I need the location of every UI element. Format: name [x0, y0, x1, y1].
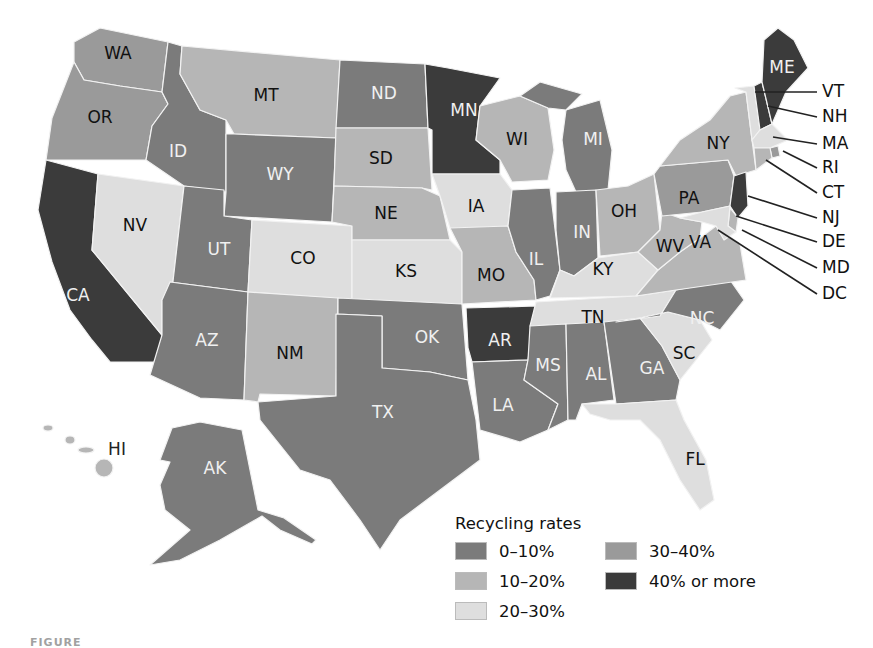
state-label-nc: NC	[690, 308, 715, 328]
callout-label-dc: DC	[822, 283, 847, 303]
callout-label-vt: VT	[822, 81, 845, 101]
state-label-tx: TX	[371, 402, 394, 422]
callout-label-nh: NH	[822, 106, 848, 126]
callout-label-ri: RI	[822, 157, 839, 177]
state-label-tn: TN	[580, 307, 604, 327]
state-label-or: OR	[87, 107, 112, 127]
state-label-ny: NY	[706, 133, 730, 153]
state-label-in: IN	[573, 222, 591, 242]
state-HI[interactable]	[43, 425, 113, 477]
legend-swatch	[455, 572, 487, 590]
legend-swatch	[605, 542, 637, 560]
callout-labels: VTNHMARICTNJDEMDDC	[822, 81, 850, 303]
state-label-sc: SC	[673, 343, 696, 363]
state-label-wa: WA	[104, 43, 132, 63]
state-label-mn: MN	[450, 100, 477, 120]
state-label-wy: WY	[266, 164, 294, 184]
state-label-ga: GA	[640, 358, 665, 378]
legend-label: 30–40%	[649, 542, 715, 561]
legend-swatch	[455, 602, 487, 620]
state-label-wv: WV	[656, 236, 685, 256]
state-label-sd: SD	[369, 148, 393, 168]
legend-item-10-20: 10–20%	[447, 570, 597, 592]
state-label-la: LA	[492, 395, 514, 415]
legend-label: 10–20%	[499, 572, 565, 591]
state-label-nv: NV	[123, 215, 148, 235]
callout-label-de: DE	[822, 231, 846, 251]
state-label-me: ME	[769, 57, 794, 77]
legend-items: 0–10% 30–40% 10–20% 40% or more 20–30%	[447, 540, 767, 622]
legend-item-30-40: 30–40%	[597, 540, 767, 562]
state-label-id: ID	[169, 141, 187, 161]
legend-label: 40% or more	[649, 572, 756, 591]
callout-label-nj: NJ	[822, 207, 840, 227]
state-label-ca: CA	[66, 285, 90, 305]
state-label-nd: ND	[371, 83, 397, 103]
state-label-mo: MO	[477, 265, 505, 285]
state-label-mi: MI	[583, 129, 603, 149]
state-label-va: VA	[689, 232, 712, 252]
legend-swatch	[605, 572, 637, 590]
state-label-ks: KS	[395, 261, 417, 281]
state-label-pa: PA	[679, 188, 700, 208]
legend-swatch	[455, 542, 487, 560]
state-label-oh: OH	[611, 201, 637, 221]
legend-label: 20–30%	[499, 602, 565, 621]
legend-title: Recycling rates	[455, 512, 767, 536]
state-label-ms: MS	[535, 355, 560, 375]
state-label-mt: MT	[253, 85, 279, 105]
state-CT[interactable]	[754, 148, 772, 170]
legend: Recycling rates 0–10% 30–40% 10–20% 40% …	[447, 512, 767, 622]
state-label-ky: KY	[593, 259, 615, 279]
state-label-fl: FL	[685, 449, 705, 469]
state-label-ak: AK	[204, 458, 228, 478]
state-label-az: AZ	[195, 330, 218, 350]
state-label-co: CO	[290, 248, 315, 268]
state-label-nm: NM	[276, 343, 303, 363]
state-label-ne: NE	[374, 203, 397, 223]
legend-label: 0–10%	[499, 542, 554, 561]
legend-item-20-30: 20–30%	[447, 600, 597, 622]
callout-label-md: MD	[822, 257, 850, 277]
legend-item-0-10: 0–10%	[447, 540, 597, 562]
callout-label-ct: CT	[822, 182, 845, 202]
legend-item-40-plus: 40% or more	[597, 570, 767, 592]
state-label-ia: IA	[468, 196, 485, 216]
state-label-ut: UT	[208, 239, 231, 259]
figure-caption: FIGURE	[30, 636, 82, 648]
state-label-ar: AR	[488, 330, 512, 350]
state-label-wi: WI	[506, 129, 528, 149]
state-label-il: IL	[529, 249, 544, 269]
state-label-ok: OK	[415, 327, 440, 347]
callout-label-ma: MA	[822, 133, 849, 153]
state-label-al: AL	[585, 364, 607, 384]
state-label-hi: HI	[108, 439, 126, 459]
